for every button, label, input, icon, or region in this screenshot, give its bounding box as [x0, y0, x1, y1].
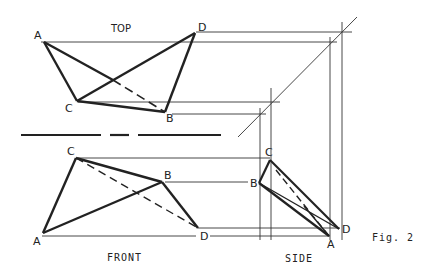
- side-view-title: SIDE: [285, 254, 313, 264]
- side-point-a-label: A: [327, 239, 335, 250]
- front-view-title: FRONT: [107, 253, 142, 263]
- top-point-b-label: B: [166, 113, 174, 124]
- top-point-c-label: C: [65, 103, 73, 114]
- projection-lines: [41, 17, 357, 240]
- orthographic-projection-drawing: [0, 0, 434, 279]
- front-point-b-label: B: [164, 170, 172, 181]
- top-view-title: TOP: [111, 24, 131, 34]
- front-point-c-label: C: [67, 146, 75, 157]
- front-point-d-label: D: [200, 231, 208, 242]
- side-point-c-label: C: [265, 147, 273, 158]
- top-point-a-label: A: [34, 30, 42, 41]
- top-view-object: [44, 33, 195, 112]
- front-point-a-label: A: [33, 236, 41, 247]
- top-point-d-label: D: [198, 22, 206, 33]
- figure-caption: Fig. 2: [372, 233, 414, 243]
- front-view-object: [43, 158, 198, 233]
- side-point-b-label: B: [250, 178, 258, 189]
- side-point-d-label: D: [342, 224, 350, 235]
